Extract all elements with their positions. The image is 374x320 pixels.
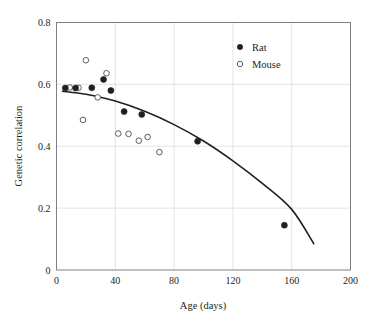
y-tick-label: 0.4 [38, 141, 51, 152]
data-point-rat [195, 138, 201, 144]
legend-label-rat: Rat [252, 42, 267, 53]
y-tick-label: 0.8 [38, 17, 51, 28]
data-point-mouse [145, 134, 151, 140]
y-tick-label: 0 [46, 265, 51, 276]
x-axis-title: Age (days) [180, 300, 227, 312]
x-tick-label: 200 [343, 275, 358, 286]
data-point-rat [101, 76, 107, 82]
mouse-data-points [67, 57, 162, 154]
data-point-rat [89, 85, 95, 91]
legend-marker-mouse [237, 61, 242, 66]
data-point-mouse [104, 70, 110, 76]
scatter-plot: 00.20.40.60.8 04080120160200 Rat Mouse A… [0, 0, 374, 320]
data-point-rat [121, 109, 127, 115]
data-point-mouse [157, 149, 163, 155]
x-tick-label: 120 [225, 275, 240, 286]
fit-curve [62, 91, 313, 244]
data-point-rat [281, 222, 287, 228]
data-point-rat [108, 88, 114, 94]
y-tick-label: 0.6 [38, 79, 51, 90]
data-point-rat [62, 85, 68, 91]
legend-marker-rat [237, 44, 242, 49]
y-tick-label: 0.2 [38, 203, 51, 214]
x-tick-label: 0 [54, 275, 59, 286]
data-point-mouse [83, 57, 89, 63]
gridlines [57, 23, 351, 271]
data-point-mouse [80, 117, 86, 123]
data-point-mouse [95, 95, 101, 101]
chart-figure: 00.20.40.60.8 04080120160200 Rat Mouse A… [0, 0, 374, 320]
y-axis-title: Genetic correlation [13, 105, 24, 186]
legend: Rat Mouse [237, 42, 281, 70]
data-point-rat [73, 85, 79, 91]
data-point-mouse [136, 138, 142, 144]
x-tick-label: 80 [169, 275, 179, 286]
x-axis-ticks: 04080120160200 [54, 275, 358, 286]
data-point-rat [139, 111, 145, 117]
data-point-mouse [115, 131, 121, 137]
y-axis-ticks: 00.20.40.60.8 [38, 17, 51, 276]
legend-label-mouse: Mouse [252, 59, 281, 70]
x-tick-label: 40 [110, 275, 120, 286]
data-point-mouse [126, 131, 132, 137]
x-tick-label: 160 [284, 275, 299, 286]
